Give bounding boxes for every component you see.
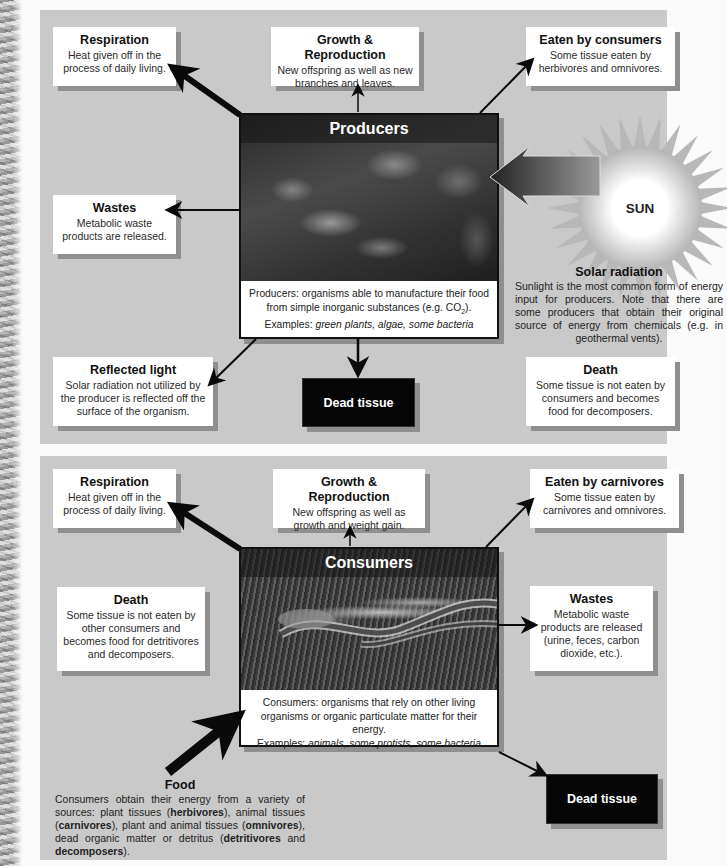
snake-illustration [241,549,497,690]
food-text: Food Consumers obtain their energy from … [55,778,305,858]
box-title: Wastes [536,592,647,607]
producers-growth-box: Growth & Reproduction New offspring as w… [271,27,419,86]
producers-respiration-box: Respiration Heat given off in the proces… [53,27,176,86]
box-title: Respiration [59,33,170,48]
dead-tissue-label: Dead tissue [567,792,637,806]
box-desc: New offspring as well as growth and weig… [279,506,419,532]
box-desc: Some tissue is not eaten by consumers an… [532,379,669,418]
box-title: Growth & Reproduction [279,475,419,505]
solar-title: Solar radiation [515,265,723,280]
box-desc: Heat given off in the process of daily l… [59,49,170,75]
producers-title: Producers [241,115,497,143]
box-title: Eaten by carnivores [536,475,673,490]
producers-photo: Producers [241,115,497,281]
box-desc: Heat given off in the process of daily l… [59,491,170,517]
producers-reflected-box: Reflected light Solar radiation not util… [53,357,213,426]
box-desc: Some tissue is not eaten by other consum… [63,609,199,661]
consumers-organism-card: Consumers Consumers: organisms that rely… [239,547,499,747]
caption-line: Producers: organisms able to manufacture… [245,287,493,301]
box-desc: Metabolic waste products are released (u… [536,608,647,660]
consumers-growth-box: Growth & Reproduction New offspring as w… [273,469,425,528]
box-desc: Metabolic waste products are released. [59,217,170,243]
box-title: Eaten by consumers [532,33,669,48]
box-desc: Some tissue eaten by herbivores and omni… [532,49,669,75]
box-title: Reflected light [59,363,207,378]
caption-line: organisms or organic particulate matter … [245,710,493,737]
producers-eaten-box: Eaten by consumers Some tissue eaten by … [526,27,675,86]
consumers-caption: Consumers: organisms that rely on other … [241,690,497,755]
caption-line: Consumers: organisms that rely on other … [245,696,493,710]
box-title: Growth & Reproduction [277,33,413,63]
producers-organism-card: Producers Producers: organisms able to m… [239,113,499,339]
decorative-side-texture [0,0,22,866]
consumers-wastes-box: Wastes Metabolic waste products are rele… [530,586,653,671]
box-desc: Solar radiation not utilized by the prod… [59,379,207,418]
box-title: Death [63,593,199,608]
caption-examples: Examples: animals, some protists, some b… [245,737,493,751]
box-title: Wastes [59,201,170,216]
producers-caption: Producers: organisms able to manufacture… [241,281,497,337]
box-title: Respiration [59,475,170,490]
box-desc: Some tissue eaten by carnivores and omni… [536,491,673,517]
solar-radiation-text: Solar radiation Sunlight is the most com… [515,265,723,345]
dead-tissue-label: Dead tissue [323,396,393,410]
caption-examples: Examples: green plants, algae, some bact… [245,318,493,332]
consumers-respiration-box: Respiration Heat given off in the proces… [53,469,176,528]
food-title: Food [55,778,305,793]
consumers-death-box: Death Some tissue is not eaten by other … [57,587,205,671]
producers-wastes-box: Wastes Metabolic waste products are rele… [53,195,176,254]
producers-dead-tissue-box: Dead tissue [302,378,415,427]
box-desc: New offspring as well as new branches an… [277,64,413,90]
solar-desc: Sunlight is the most common form of ener… [515,280,723,345]
box-title: Death [532,363,669,378]
consumers-eaten-box: Eaten by carnivores Some tissue eaten by… [530,469,679,528]
consumers-photo: Consumers [241,549,497,690]
producers-death-box: Death Some tissue is not eaten by consum… [526,357,675,426]
caption-line: from simple inorganic substances (e.g. C… [245,301,493,319]
consumers-dead-tissue-box: Dead tissue [546,774,658,824]
food-desc: Consumers obtain their energy from a var… [55,793,305,858]
